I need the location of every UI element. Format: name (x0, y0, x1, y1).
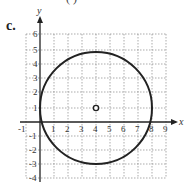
svg-text:6: 6 (33, 29, 38, 39)
center-point (93, 105, 98, 110)
svg-text:-1: -1 (18, 124, 26, 134)
svg-text:1: 1 (33, 103, 38, 113)
svg-text:-2: -2 (29, 145, 37, 155)
svg-text:6: 6 (121, 124, 126, 134)
svg-text:3: 3 (33, 73, 38, 83)
svg-text:4: 4 (93, 124, 98, 134)
svg-text:5: 5 (107, 124, 112, 134)
svg-text:2: 2 (65, 124, 70, 134)
svg-text:3: 3 (79, 124, 84, 134)
svg-text:-4: -4 (29, 173, 37, 183)
y-axis-label: y (36, 5, 42, 16)
y-tick-labels: 6 5 4 3 2 1 -1 -2 -3 -4 (29, 29, 38, 183)
x-axis-label: x (178, 116, 184, 127)
svg-text:1: 1 (51, 124, 56, 134)
circle-graph: x y -1 1 2 3 4 5 6 7 8 9 6 5 4 3 2 1 -1 … (0, 0, 187, 191)
svg-text:9: 9 (163, 124, 168, 134)
svg-text:-1: -1 (29, 131, 37, 141)
svg-text:4: 4 (33, 59, 38, 69)
svg-text:7: 7 (135, 124, 140, 134)
svg-text:2: 2 (33, 87, 38, 97)
y-axis-arrow-icon (37, 16, 43, 23)
svg-text:-3: -3 (29, 159, 37, 169)
svg-text:5: 5 (33, 45, 38, 55)
x-axis-arrow-icon (171, 119, 178, 125)
